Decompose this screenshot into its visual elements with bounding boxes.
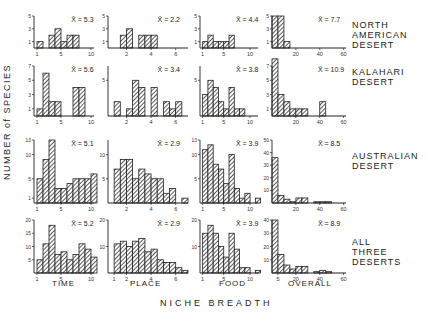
histogram-bar [320,102,326,116]
histogram-panel: 135204060X̄ = 7.7 [266,13,346,57]
histogram-bar [126,109,132,116]
histogram-bar [91,174,97,203]
x-tick-label: 5 [59,119,62,125]
y-tick-label: 10 [263,257,269,263]
histogram-bar [224,257,229,273]
x-tick-label: 5 [222,119,225,125]
histogram-bar [296,198,302,203]
histogram-bar [49,102,55,116]
histogram-bar [133,80,139,116]
histogram-bar [208,35,213,48]
histogram-bar [37,260,43,273]
x-tick-label: 10 [88,276,94,282]
histogram-bar [272,16,278,48]
histogram-bar [284,265,290,273]
histogram-bar [182,198,188,203]
x-tick-label: 5 [276,276,279,282]
y-tick-label: 3 [102,26,105,32]
histogram-bar [234,188,239,203]
histogram-bar [151,179,157,203]
y-tick-label: 5 [28,13,31,19]
x-tick-label: 2 [125,119,128,125]
x-axis-label: NICHE BREADTH [160,298,273,308]
y-tick-label: 30 [263,230,269,236]
histogram-bar [126,159,132,203]
histogram-bar [290,109,296,116]
histogram-bar [203,233,208,273]
y-tick-label: 5 [266,13,269,19]
histogram-bar [218,247,223,274]
row-label-australian: AUSTRALIANDESERT [352,151,419,171]
x-tick-label: 6 [174,119,177,125]
x-tick-label: 10 [88,206,94,212]
x-tick-label: 40 [317,206,323,212]
histogram-bar [37,109,43,116]
mean-label: X̄ = 3.8 [236,66,258,73]
x-tick-label: 4 [150,51,153,57]
y-tick-label: 5 [102,176,105,182]
histogram-bar [170,262,176,273]
y-tick-label: 5 [28,176,31,182]
x-tick-label: 1 [201,119,204,125]
x-tick-label: 10 [247,51,253,57]
x-tick-label: 1 [201,51,204,57]
y-tick-label: 20 [263,175,269,181]
y-tick-label: 3 [266,26,269,32]
histogram-bar [229,87,234,116]
y-tick-label: 5 [28,257,31,263]
histogram-bar [163,193,169,203]
histogram-bar [224,184,229,203]
x-tick-label: 1 [35,276,38,282]
x-tick-label: 1 [201,276,204,282]
histogram-bar [139,35,145,48]
y-tick-label: 13 [191,137,197,143]
histogram-bar [278,254,284,273]
histogram-bar [126,29,132,48]
histogram-bar [79,179,85,203]
histogram-bar [120,35,126,48]
histogram-bar [278,95,284,116]
y-tick-label: 50 [263,137,269,143]
mean-label: X̄ = 8.9 [318,220,340,227]
mean-label: X̄ = 5.1 [71,140,93,147]
y-tick-label: 10 [191,152,197,158]
histogram-panel: 510246X̄ = 2.9 [99,140,188,212]
histogram-bar [272,158,278,203]
y-tick-label: 1 [28,39,31,45]
histogram-bar [272,59,278,116]
histogram-bar [170,109,176,116]
x-tick-label: 40 [317,51,323,57]
histogram-bar [157,260,163,273]
histogram-bar [139,169,145,203]
y-tick-label: 3 [28,26,31,32]
histogram-bar [114,169,120,203]
histogram-bar [229,35,234,48]
y-tick-label: 5 [28,77,31,83]
mean-label: X̄ = 2.9 [158,140,180,147]
x-tick-label: 10 [247,276,253,282]
histogram-bar [284,42,290,48]
histogram-bar [278,16,284,48]
y-axis-label: NUMBER of SPECIES [2,64,12,180]
y-tick-label: 3 [266,92,269,98]
histogram-bar [213,164,218,203]
mean-label: X̄ = 5.3 [71,16,93,23]
y-tick-label: 10 [99,152,105,158]
histogram-bar [126,247,132,274]
y-tick-label: 40 [263,217,269,223]
column-label-overall: OVERALL [288,279,332,288]
histogram-bar [278,195,284,203]
histogram-bar [67,184,73,203]
mean-label: X̄ = 7.7 [318,16,340,23]
histogram-bar [170,188,176,203]
x-tick-label: 40 [317,119,323,125]
histogram-bar [203,42,208,48]
histogram-bar [272,220,278,273]
histogram-bar [176,102,182,116]
histogram-bar [139,87,145,116]
histogram-bar [114,244,120,273]
histogram-bar [55,254,61,273]
histogram-bar [302,109,308,116]
x-tick-label: 1 [35,51,38,57]
histogram-bar [49,35,55,48]
